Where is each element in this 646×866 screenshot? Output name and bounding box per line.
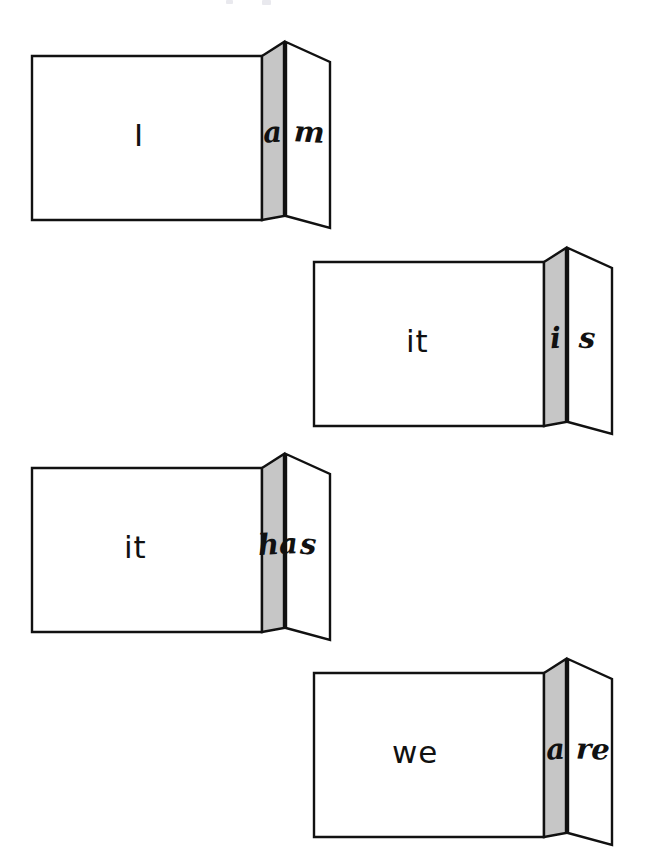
fold-panel <box>544 248 566 426</box>
cropped-artifact-left <box>226 0 233 4</box>
folded-card: it i s <box>304 244 614 439</box>
fold-panel <box>544 659 566 837</box>
folded-card: I a m <box>22 38 332 233</box>
folded-card: it ha s <box>22 450 332 645</box>
fold-panel <box>262 42 284 220</box>
fold-panel <box>262 454 284 632</box>
back-flap-panel <box>286 454 330 640</box>
front-panel <box>314 262 544 426</box>
cropped-artifact-right <box>262 0 271 5</box>
front-panel <box>32 56 262 220</box>
front-panel <box>32 468 262 632</box>
back-flap-panel <box>286 42 330 228</box>
back-flap-panel <box>568 248 612 434</box>
front-panel <box>314 673 544 837</box>
back-flap-panel <box>568 659 612 845</box>
figure-canvas: I a m it i s it ha s we a re <box>0 0 646 866</box>
folded-card: we a re <box>304 655 614 850</box>
